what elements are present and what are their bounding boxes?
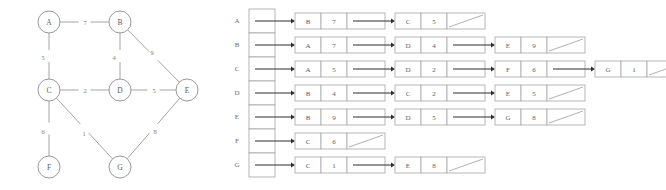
adjacency-node-b-2-vertex: E: [506, 42, 510, 50]
adjacency-node-f-0-vertex: C: [306, 138, 311, 146]
adjacency-node-e-1-vertex: D: [405, 114, 410, 122]
adjacency-node-c-2-next-pointer-head: [591, 66, 595, 71]
adjacency-node-a-0-vertex: B: [306, 18, 311, 26]
adjacency-node-b-2-weight: 9: [532, 42, 536, 50]
adjacency-node-b-1-vertex: D: [405, 42, 410, 50]
adjacency-node-a-0-next-pointer-head: [391, 18, 395, 23]
adjacency-node-c-1-weight: 2: [432, 66, 436, 74]
adjacency-node-c-0-weight: 5: [332, 66, 336, 74]
adjacency-node-c-1-vertex: D: [405, 66, 410, 74]
adjacency-node-b-0-next-pointer-head: [391, 42, 395, 47]
edge-weight-de: 5: [152, 87, 155, 94]
adjacency-node-a-1-weight: 5: [432, 18, 436, 26]
adjacency-row-label-d: D: [234, 89, 239, 97]
adjacency-node-d-0-next-pointer-head: [391, 90, 395, 95]
graph-node-label-g: G: [117, 163, 123, 172]
graph-edge-e-g: [157, 98, 179, 124]
adjacency-node-e-1-next-pointer-head: [491, 114, 495, 119]
graph-node-label-e: E: [185, 86, 190, 95]
adjacency-head-pointer-a-head: [291, 18, 295, 23]
adjacency-node-d-2-weight: 5: [532, 90, 536, 98]
graph-canvas: 754925618ABCDEFG: [0, 0, 230, 190]
adjacency-list-panel: AB7C5BA7D4E9CA5D2F6G1DB4C2E5EB9D5G8FC6GC…: [230, 0, 666, 190]
adjacency-node-e-0-vertex: B: [306, 114, 311, 122]
graph-edge-c-g: [56, 98, 80, 124]
adjacency-node-b-0-weight: 7: [332, 42, 336, 50]
graph-adjacency-list-figure: 754925618ABCDEFG AB7C5BA7D4E9CA5D2F6G1DB…: [0, 0, 666, 190]
graph-node-label-c: C: [46, 86, 51, 95]
adjacency-node-g-1-vertex: E: [406, 162, 410, 170]
adjacency-node-b-1-next-pointer-head: [491, 42, 495, 47]
adjacency-node-f-0-weight: 6: [332, 138, 336, 146]
edge-weight-cg: 1: [82, 130, 85, 137]
adjacency-row-label-c: C: [235, 65, 240, 73]
adjacency-node-b-0-vertex: A: [305, 42, 310, 50]
adjacency-node-b-1-weight: 4: [432, 42, 436, 50]
adjacency-node-d-1-weight: 2: [432, 90, 436, 98]
adjacency-row-label-a: A: [234, 17, 239, 25]
edge-weight-ac: 5: [41, 54, 44, 61]
adjacency-node-g-0-vertex: C: [306, 162, 311, 170]
adjacency-node-c-0-vertex: A: [305, 66, 310, 74]
adjacency-row-label-f: F: [235, 137, 239, 145]
edge-weight-ab: 7: [83, 19, 87, 26]
adjacency-node-e-2-weight: 8: [532, 114, 536, 122]
adjacency-node-c-3-weight: 1: [632, 66, 636, 74]
graph-edge-e-g-b: [127, 133, 149, 159]
graph-edge-c-g-b: [89, 133, 113, 159]
adjacency-node-g-0-weight: 1: [332, 162, 336, 170]
adjacency-node-e-2-vertex: G: [505, 114, 510, 122]
graph-diagram-panel: 754925618ABCDEFG: [0, 0, 230, 190]
graph-node-label-f: F: [47, 163, 51, 172]
adjacency-head-pointer-c-head: [291, 66, 295, 71]
adjacency-row-label-e: E: [235, 113, 239, 121]
adjacency-head-pointer-g-head: [291, 162, 295, 167]
adjacency-node-e-0-weight: 9: [332, 114, 336, 122]
adjacency-node-g-1-weight: 8: [432, 162, 436, 170]
adjacency-node-e-1-weight: 5: [432, 114, 436, 122]
adjacency-node-c-0-next-pointer-head: [391, 66, 395, 71]
edge-weight-cf: 6: [41, 128, 45, 135]
adjacency-node-c-1-next-pointer-head: [491, 66, 495, 71]
adjacency-row-label-b: B: [235, 41, 240, 49]
adjacency-head-pointer-e-head: [291, 114, 295, 119]
graph-node-label-b: B: [117, 18, 122, 27]
edge-weight-be: 9: [150, 49, 153, 56]
adjacency-node-d-1-vertex: C: [406, 90, 411, 98]
graph-edge-b-e-b: [158, 60, 180, 82]
graph-node-label-d: D: [117, 86, 123, 95]
adjacency-node-c-2-weight: 6: [532, 66, 536, 74]
adjacency-node-g-0-next-pointer-head: [391, 162, 395, 167]
adjacency-list-canvas: AB7C5BA7D4E9CA5D2F6G1DB4C2E5EB9D5G8FC6GC…: [230, 0, 666, 190]
adjacency-row-label-g: G: [234, 161, 239, 169]
adjacency-node-d-2-vertex: E: [506, 90, 510, 98]
adjacency-node-d-1-next-pointer-head: [491, 90, 495, 95]
edge-weight-bd: 4: [112, 54, 116, 61]
adjacency-node-d-0-weight: 4: [332, 90, 336, 98]
adjacency-node-c-3-vertex: G: [605, 66, 610, 74]
adjacency-node-a-1-vertex: C: [406, 18, 411, 26]
adjacency-head-pointer-d-head: [291, 90, 295, 95]
adjacency-node-a-0-weight: 7: [332, 18, 336, 26]
edge-weight-eg: 8: [153, 128, 156, 135]
adjacency-head-pointer-b-head: [291, 42, 295, 47]
adjacency-node-e-0-next-pointer-head: [391, 114, 395, 119]
graph-node-label-a: A: [46, 18, 52, 27]
edge-weight-cd: 2: [83, 87, 86, 94]
graph-edge-b-e: [128, 30, 150, 52]
adjacency-node-c-2-vertex: F: [506, 66, 510, 74]
adjacency-head-pointer-f-head: [291, 138, 295, 143]
adjacency-node-d-0-vertex: B: [306, 90, 311, 98]
